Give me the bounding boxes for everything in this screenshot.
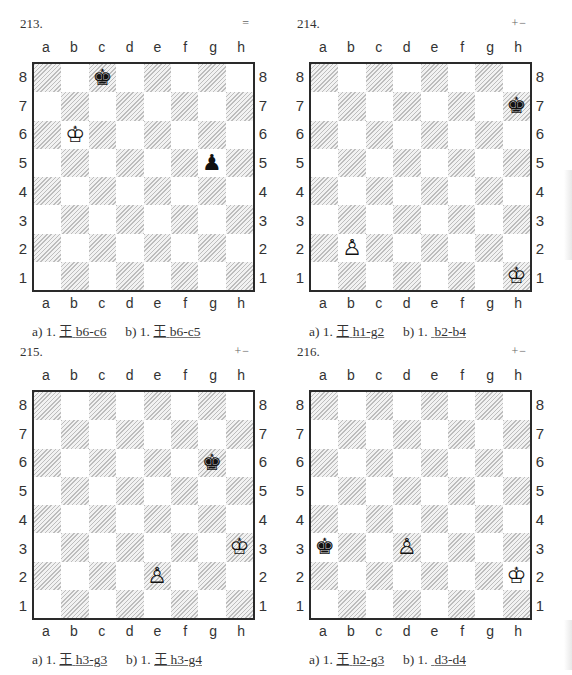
square-d3 <box>116 533 143 561</box>
square-d5 <box>116 149 143 177</box>
square-g8 <box>475 64 502 92</box>
rank-label: 8 <box>16 62 30 91</box>
square-d3: ♙ <box>393 533 420 561</box>
chess-board: ♚♔♟ <box>32 62 255 292</box>
square-c7 <box>89 92 116 120</box>
file-label: b <box>337 367 365 383</box>
square-h2 <box>226 562 253 590</box>
square-e5 <box>144 477 171 505</box>
square-b1 <box>61 590 88 618</box>
file-label: f <box>448 295 476 311</box>
square-h8 <box>503 64 530 92</box>
rank-label: 8 <box>533 62 547 91</box>
square-e4 <box>421 177 448 205</box>
rank-label: 4 <box>256 505 270 534</box>
square-a2 <box>311 234 338 262</box>
chess-board: ♚♔♙ <box>32 390 255 620</box>
file-label: e <box>144 39 172 55</box>
rank-labels-right: 87654321 <box>256 390 270 620</box>
square-e1 <box>421 262 448 290</box>
diagram-214: 214. +− abcdefgh 87654321 ♚♙♔ 87654321 a… <box>277 0 557 320</box>
rank-label: 1 <box>256 263 270 292</box>
square-e8 <box>144 64 171 92</box>
evaluation-symbol: = <box>242 16 250 31</box>
white-pawn-icon: ♙ <box>342 237 362 259</box>
file-label: h <box>504 295 532 311</box>
square-b8 <box>61 64 88 92</box>
file-label: b <box>60 39 88 55</box>
rank-label: 4 <box>533 177 547 206</box>
square-h7 <box>226 420 253 448</box>
file-label: f <box>448 367 476 383</box>
square-g1 <box>198 590 225 618</box>
square-h2 <box>226 234 253 262</box>
square-f3 <box>448 533 475 561</box>
square-g3 <box>198 205 225 233</box>
square-h6 <box>503 121 530 149</box>
option-b-prefix: b) 1. <box>403 652 428 667</box>
square-h3 <box>503 533 530 561</box>
rank-label: 3 <box>293 206 307 235</box>
square-d1 <box>393 590 420 618</box>
black-king-icon: ♚ <box>315 536 335 558</box>
square-g2 <box>475 562 502 590</box>
square-a7 <box>34 420 61 448</box>
square-c6 <box>89 121 116 149</box>
square-f6 <box>171 449 198 477</box>
square-f8 <box>448 392 475 420</box>
rank-label: 6 <box>293 448 307 477</box>
chess-board: ♚♙♔ <box>309 62 532 292</box>
square-a7 <box>34 92 61 120</box>
black-king-icon: ♚ <box>506 95 526 117</box>
square-f5 <box>448 477 475 505</box>
file-label: f <box>171 39 199 55</box>
square-c8 <box>366 392 393 420</box>
file-label: g <box>199 295 227 311</box>
option-a-move-text: h3-g3 <box>76 652 108 667</box>
file-label: g <box>199 367 227 383</box>
square-h7 <box>503 420 530 448</box>
square-d3 <box>116 205 143 233</box>
square-b5 <box>61 477 88 505</box>
file-label: f <box>448 623 476 639</box>
square-h7: ♚ <box>503 92 530 120</box>
square-a8 <box>311 64 338 92</box>
rank-label: 7 <box>533 419 547 448</box>
square-c4 <box>89 177 116 205</box>
square-a5 <box>311 149 338 177</box>
square-h1 <box>226 590 253 618</box>
square-e8 <box>421 64 448 92</box>
chess-board: ♚♙♔ <box>309 390 532 620</box>
file-labels-bottom: abcdefgh <box>309 623 532 639</box>
square-d7 <box>116 92 143 120</box>
file-label: a <box>309 367 337 383</box>
square-g6 <box>198 121 225 149</box>
square-a3 <box>34 205 61 233</box>
rank-labels-right: 87654321 <box>533 62 547 292</box>
rank-label: 2 <box>533 235 547 264</box>
option-a-prefix: a) 1. <box>309 652 333 667</box>
square-f4 <box>171 505 198 533</box>
square-g5: ♟ <box>198 149 225 177</box>
file-label: h <box>227 623 255 639</box>
rank-label: 5 <box>293 148 307 177</box>
square-a6 <box>34 449 61 477</box>
square-g6 <box>475 121 502 149</box>
square-b3 <box>61 205 88 233</box>
square-e1 <box>144 262 171 290</box>
square-b4 <box>338 177 365 205</box>
black-pawn-icon: ♟ <box>202 152 222 174</box>
square-c4 <box>366 177 393 205</box>
rank-label: 2 <box>293 563 307 592</box>
rank-label: 3 <box>533 206 547 235</box>
rank-label: 6 <box>293 120 307 149</box>
square-e7 <box>421 420 448 448</box>
option-b-prefix: b) 1. <box>126 652 151 667</box>
square-d7 <box>393 420 420 448</box>
square-g7 <box>475 420 502 448</box>
rank-label: 4 <box>16 177 30 206</box>
square-d3 <box>393 205 420 233</box>
square-f7 <box>171 420 198 448</box>
square-g8 <box>475 392 502 420</box>
diagram-213: 213. = abcdefgh 87654321 ♚♔♟ 87654321 ab… <box>0 0 280 320</box>
